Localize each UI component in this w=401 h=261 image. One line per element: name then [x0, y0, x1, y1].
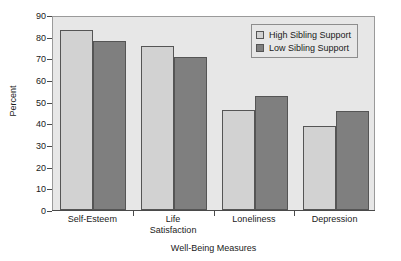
y-tick-label: 50 — [36, 98, 46, 107]
x-tick-mark — [133, 211, 134, 216]
y-tick-mark — [47, 59, 52, 60]
y-axis-title: Percent — [8, 66, 18, 136]
legend-item: Low Sibling Support — [256, 41, 351, 54]
bar-high-support — [222, 110, 255, 210]
y-tick-label: 40 — [36, 120, 46, 129]
x-tick-label: Self-Esteem — [68, 214, 117, 225]
y-tick-label: 0 — [41, 207, 46, 216]
bar-low-support — [93, 41, 126, 210]
y-tick-mark — [47, 146, 52, 147]
x-axis-title: Well-Being Measures — [52, 243, 375, 253]
legend: High Sibling Support Low Sibling Support — [251, 24, 358, 58]
y-tick-mark — [47, 38, 52, 39]
x-tick-label: Life Satisfaction — [150, 214, 197, 236]
y-tick-mark — [47, 81, 52, 82]
x-tick-mark — [214, 211, 215, 216]
y-tick-mark — [47, 16, 52, 17]
x-tick-label: Depression — [312, 214, 358, 225]
y-tick-mark — [47, 168, 52, 169]
y-tick-mark — [47, 124, 52, 125]
legend-label: High Sibling Support — [269, 30, 351, 40]
y-tick-label: 10 — [36, 185, 46, 194]
y-tick-label: 80 — [36, 33, 46, 42]
legend-swatch-low-icon — [256, 44, 264, 52]
y-tick-mark — [47, 211, 52, 212]
legend-swatch-high-icon — [256, 31, 264, 39]
bar-chart: Percent 0102030405060708090 Self-EsteemL… — [0, 0, 401, 261]
bar-low-support — [174, 57, 207, 210]
y-tick-mark — [47, 103, 52, 104]
x-tick-mark — [294, 211, 295, 216]
y-tick-label: 30 — [36, 142, 46, 151]
bar-high-support — [60, 30, 93, 210]
y-axis-tick-group: 0102030405060708090 — [28, 16, 46, 211]
x-axis-tick-group: Self-EsteemLife SatisfactionLonelinessDe… — [52, 214, 375, 244]
bar-low-support — [255, 96, 288, 210]
legend-label: Low Sibling Support — [269, 43, 349, 53]
legend-item: High Sibling Support — [256, 28, 351, 41]
x-tick-label: Loneliness — [232, 214, 275, 225]
y-tick-label: 20 — [36, 163, 46, 172]
y-tick-mark — [47, 189, 52, 190]
bar-high-support — [141, 46, 174, 210]
bar-low-support — [336, 111, 369, 210]
y-tick-label: 90 — [36, 12, 46, 21]
y-tick-label: 60 — [36, 77, 46, 86]
bar-high-support — [303, 126, 336, 211]
y-tick-label: 70 — [36, 55, 46, 64]
